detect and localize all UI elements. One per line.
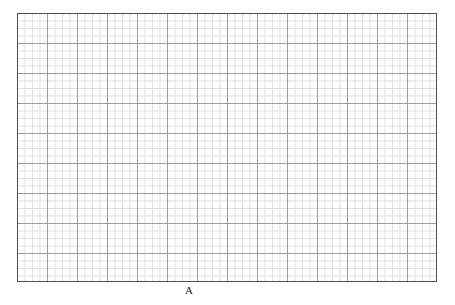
plot-area bbox=[17, 13, 437, 282]
figure-canvas: A bbox=[0, 0, 455, 305]
x-axis-label: A bbox=[149, 285, 229, 296]
plot-border bbox=[17, 13, 437, 282]
minor-gridlines bbox=[17, 13, 437, 282]
major-gridlines bbox=[17, 13, 437, 282]
